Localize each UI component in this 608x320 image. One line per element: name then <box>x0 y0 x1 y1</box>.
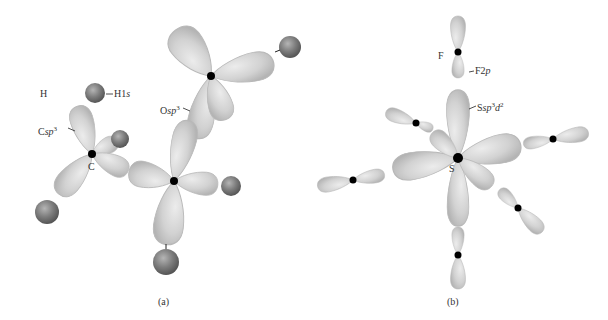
label-f-atom: F <box>438 51 444 61</box>
label-csp3-base: C <box>38 126 45 137</box>
label-h1s-sub: s <box>126 88 130 99</box>
label-osp3-sub: sp <box>167 105 176 116</box>
label-osp3-sup: 3 <box>176 104 180 112</box>
hydrogen-sphere <box>111 130 129 148</box>
label-osp3: Osp3 <box>160 103 180 116</box>
sulfur-nucleus <box>453 153 463 163</box>
carbon2-nucleus <box>170 177 178 185</box>
oxygen-nucleus <box>207 72 215 80</box>
orbital-diagram <box>0 0 608 320</box>
carbon-nucleus <box>88 150 96 158</box>
label-ssp3d2: Ssp3d2 <box>477 100 503 113</box>
hydrogen-sphere <box>85 83 105 103</box>
hydrogen-sphere <box>221 176 241 196</box>
hydrogen-sphere <box>35 200 59 224</box>
hydrogen-sphere <box>279 36 301 58</box>
label-f2p-sub: p <box>486 65 491 76</box>
panel-b <box>316 16 590 289</box>
label-csp3: Csp3 <box>38 124 57 137</box>
label-h1s-base: H1 <box>114 88 126 99</box>
label-h-atom: H <box>40 89 47 99</box>
label-csp3-sub: sp <box>45 126 54 137</box>
label-f2p-base: F2 <box>475 65 486 76</box>
label-csp3-sup: 3 <box>54 125 58 133</box>
label-f2p: F2p <box>475 66 491 76</box>
label-s-atom: S <box>449 164 455 174</box>
panel-a <box>35 20 301 275</box>
label-c-atom: C <box>88 162 95 172</box>
caption-a: (a) <box>158 296 169 307</box>
sulfur-orbitals <box>316 16 590 289</box>
hydrogen-sphere <box>153 249 179 275</box>
label-h1s: H1s <box>114 89 130 99</box>
label-ssp3d2-sup2: 2 <box>500 101 504 109</box>
caption-b: (b) <box>447 296 459 307</box>
